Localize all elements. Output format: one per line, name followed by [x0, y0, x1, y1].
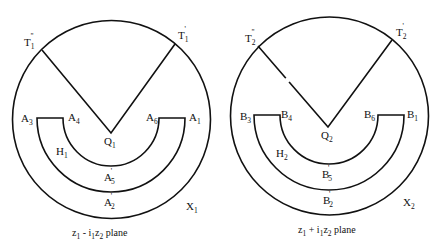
label-b2-prime: B2' [323, 190, 333, 209]
label-b6: B6 [364, 108, 375, 123]
label-h1: H1 [56, 145, 68, 160]
label-q2: Q2 [321, 129, 333, 144]
diagram-canvas: T1" T1' A3 A4 A6 A1 Q1 H1 A5' A2' X1 z1 … [0, 0, 442, 252]
label-a4: A4 [68, 111, 80, 126]
label-t2-double-prime: T2" [245, 28, 256, 47]
ray-gap [286, 78, 289, 82]
label-a2-prime: A2' [104, 192, 115, 211]
caption-left-plane: z1 - i1z2 plane [72, 227, 128, 241]
label-t1-double-prime: T1" [24, 32, 35, 51]
label-x2: X2 [403, 196, 415, 211]
label-h2: H2 [276, 147, 288, 162]
label-a1: A1 [189, 111, 201, 126]
label-a3: A3 [21, 112, 33, 127]
label-b5-prime: B5' [322, 164, 332, 183]
label-a6: A6 [146, 111, 158, 126]
label-b3: B3 [240, 110, 251, 125]
label-a5-prime: A5' [104, 167, 115, 186]
caption-right-plane: z1 + i1z2 plane [298, 224, 356, 238]
right-panel: T2" T2' B3 B4 B6 B1 Q2 H2 B5' B2' X2 z1 … [231, 17, 429, 238]
label-b1: B1 [407, 108, 418, 123]
label-x1: X1 [186, 200, 198, 215]
label-t1-prime: T1' [178, 25, 189, 44]
outer-circle-x2 [231, 17, 429, 215]
left-panel: T1" T1' A3 A4 A6 A1 Q1 H1 A5' A2' X1 z1 … [13, 21, 211, 242]
label-t2-prime: T2' [396, 22, 407, 41]
label-b4: B4 [281, 108, 292, 123]
label-q1: Q1 [104, 135, 116, 150]
